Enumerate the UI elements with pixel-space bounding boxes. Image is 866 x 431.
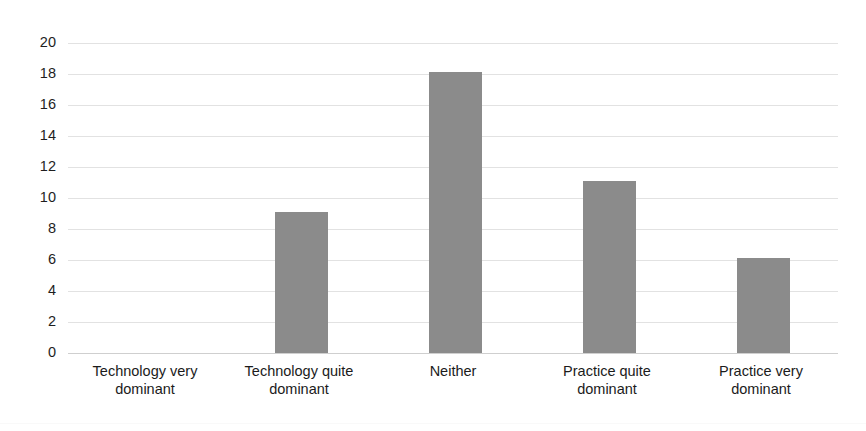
y-axis-tick-label: 12 (0, 159, 56, 174)
bar (429, 72, 482, 353)
y-axis-tick-label: 2 (0, 314, 56, 329)
x-axis: Technology verydominantTechnology quited… (68, 362, 838, 422)
plot-area (68, 43, 838, 353)
y-axis-tick-label: 10 (0, 190, 56, 205)
x-axis-tick-label-line1: Neither (376, 362, 530, 380)
x-axis-tick-label: Technology verydominant (68, 362, 222, 398)
x-axis-tick-label-line2: dominant (530, 380, 684, 398)
x-axis-tick-label-line1: Practice very (684, 362, 838, 380)
bar (275, 212, 328, 353)
y-axis-tick-label: 14 (0, 128, 56, 143)
x-axis-tick-label: Practice quitedominant (530, 362, 684, 398)
y-axis-tick-label: 16 (0, 97, 56, 112)
x-axis-tick-label-line2: dominant (68, 380, 222, 398)
y-axis-tick-label: 8 (0, 221, 56, 236)
x-axis-tick-label-line1: Technology quite (222, 362, 376, 380)
gridline (68, 353, 838, 354)
scan-artifact (0, 423, 866, 424)
x-axis-tick-label: Technology quitedominant (222, 362, 376, 398)
x-axis-tick-label: Practice verydominant (684, 362, 838, 398)
x-axis-tick-label-line1: Technology very (68, 362, 222, 380)
y-axis-tick-label: 6 (0, 252, 56, 267)
bar-chart: 20181614121086420 Technology verydominan… (0, 0, 866, 431)
y-axis: 20181614121086420 (0, 0, 60, 431)
y-axis-tick-label: 18 (0, 66, 56, 81)
x-axis-tick-label-line1: Practice quite (530, 362, 684, 380)
y-axis-tick-label: 0 (0, 345, 56, 360)
x-axis-tick-label: Neither (376, 362, 530, 380)
x-axis-tick-label-line2: dominant (684, 380, 838, 398)
y-axis-tick-label: 4 (0, 283, 56, 298)
x-axis-tick-label-line2: dominant (222, 380, 376, 398)
bar (737, 258, 790, 353)
bars-layer (68, 43, 838, 353)
y-axis-tick-label: 20 (0, 35, 56, 50)
bar (583, 181, 636, 353)
